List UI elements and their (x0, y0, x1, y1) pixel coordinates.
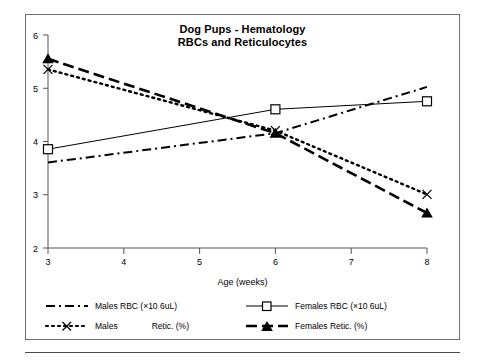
legend-item-males-retic[interactable]: MalesRetic. (%) (44, 320, 244, 332)
legend-label-males-rbc: Males RBC (×10 6uL) (95, 301, 177, 311)
x-tick-label-5: 5 (197, 257, 202, 267)
x-axis-ticks: 3 4 5 6 7 8 (45, 248, 429, 267)
y-tick-label-5: 5 (33, 84, 38, 94)
x-tick-label-4: 4 (121, 257, 126, 267)
chart-legend: Males RBC (×10 6uL) Females RBC (×10 6uL… (44, 296, 444, 336)
x-tick-label-8: 8 (424, 257, 429, 267)
series-line-males-retic (48, 69, 427, 194)
series-line-females-retic (48, 59, 427, 213)
chart-frame: Dog Pups - Hematology RBCs and Reticuloc… (25, 14, 460, 340)
series-markers-females-rbc (44, 97, 432, 154)
series-line-females-rbc (48, 101, 427, 149)
legend-item-males-rbc[interactable]: Males RBC (×10 6uL) (44, 300, 244, 312)
bottom-divider (25, 352, 460, 353)
y-tick-label-2: 2 (33, 244, 38, 254)
series-line-males-rbc (48, 87, 427, 163)
x-axis-label: Age (weeks) (26, 277, 459, 287)
legend-swatch-males-rbc (44, 300, 90, 312)
legend-label-females-rbc: Females RBC (×10 6uL) (295, 301, 387, 311)
legend-swatch-females-rbc (244, 300, 290, 312)
legend-swatch-females-retic (244, 320, 290, 332)
plot-area: 6 5 4 3 2 3 4 5 6 7 8 (26, 15, 461, 295)
legend-label-males-retic-tail: Retic. (%) (152, 321, 189, 331)
series-markers-females-retic (42, 53, 433, 217)
legend-item-females-retic[interactable]: Females Retic. (%) (244, 320, 444, 332)
legend-swatch-males-retic (44, 320, 90, 332)
y-tick-label-4: 4 (33, 137, 38, 147)
y-tick-label-6: 6 (33, 31, 38, 41)
x-tick-label-7: 7 (349, 257, 354, 267)
y-tick-label-3: 3 (33, 190, 38, 200)
legend-label-males-retic: MalesRetic. (%) (95, 321, 189, 331)
x-tick-label-6: 6 (273, 257, 278, 267)
x-tick-label-3: 3 (45, 257, 50, 267)
legend-label-males-retic-main: Males (95, 321, 118, 331)
y-axis-ticks: 6 5 4 3 2 (33, 31, 48, 254)
legend-label-females-retic: Females Retic. (%) (295, 321, 367, 331)
legend-item-females-rbc[interactable]: Females RBC (×10 6uL) (244, 300, 444, 312)
